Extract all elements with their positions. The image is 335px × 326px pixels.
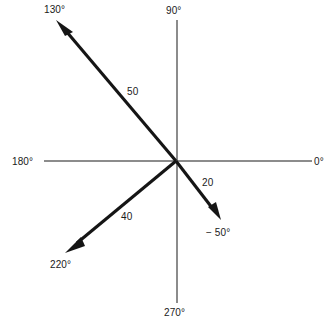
vector-50-arrowhead bbox=[56, 20, 73, 36]
vector-20-magnitude-label: 20 bbox=[202, 177, 213, 188]
vector-50-shaft-group bbox=[56, 20, 176, 161]
axis-label-90deg: 90° bbox=[166, 5, 181, 16]
vector-diagram-canvas bbox=[0, 0, 335, 326]
axis-label-180deg: 180° bbox=[12, 156, 33, 167]
vector-20-angle-label: − 50° bbox=[206, 227, 230, 238]
axis-label-0deg: 0° bbox=[314, 156, 324, 167]
axis-label-270deg: 270° bbox=[164, 307, 185, 318]
vector-diagram: 0° 90° 180° 270° 130° 50 220° 40 − 50° 2… bbox=[0, 0, 335, 326]
vector-20-shaft-group bbox=[176, 161, 221, 220]
vector-50-shaft bbox=[66, 31, 176, 161]
vector-50-angle-label: 130° bbox=[44, 4, 65, 15]
vector-40-shaft bbox=[77, 161, 176, 243]
vector-40-shaft-group bbox=[65, 161, 176, 253]
vector-40-arrowhead bbox=[65, 237, 85, 253]
vector-40-magnitude-label: 40 bbox=[121, 211, 132, 222]
vector-50-magnitude-label: 50 bbox=[127, 86, 138, 97]
vector-40-angle-label: 220° bbox=[50, 259, 71, 270]
